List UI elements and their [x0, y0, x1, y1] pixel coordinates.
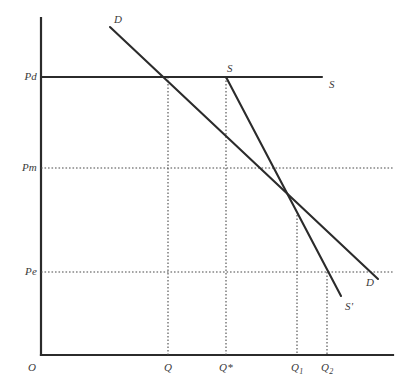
supply-curve-shifted	[226, 77, 341, 296]
diagram-canvas	[0, 0, 399, 391]
origin-label: O	[28, 362, 36, 373]
supply-curve-label-shifted: S'	[345, 301, 353, 312]
price-label-pm: Pm	[15, 162, 37, 173]
price-label-pd: Pd	[17, 71, 37, 82]
supply-curve-label-vertex: S	[227, 63, 233, 74]
demand-curve-label-top: D	[114, 14, 122, 25]
supply-curve-label-horizontal: S	[329, 79, 335, 90]
quantity-label-q: Q	[164, 362, 172, 373]
demand-curve	[110, 27, 378, 279]
price-label-pe: Pe	[17, 266, 37, 277]
quantity-label-q1: Q1	[291, 362, 303, 376]
demand-curve-label-bottom: D	[366, 277, 374, 288]
quantity-label-q2: Q2	[321, 362, 333, 376]
quantity-label-qstar: Q*	[219, 362, 233, 373]
supply-demand-figure: Pd Pm Pe O Q Q* Q1 Q2 D D S S S'	[0, 0, 399, 391]
